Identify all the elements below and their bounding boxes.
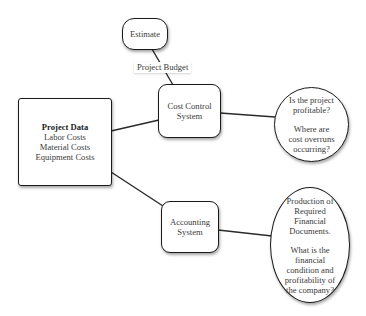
edge-label-project-budget: Project Budget xyxy=(134,62,191,73)
question-line: profitable? xyxy=(293,105,330,115)
output-line: Documents. xyxy=(289,226,330,236)
node-accounting-system[interactable]: Accounting System xyxy=(161,201,219,253)
output-line: What is the xyxy=(290,245,329,255)
edge-cost-control-to-questions xyxy=(220,113,275,117)
edge-project-data-to-accounting xyxy=(111,172,163,206)
output-line: financial xyxy=(295,255,325,265)
node-project-data-title: Project Data xyxy=(42,122,88,132)
node-project-data-item: Material Costs xyxy=(40,142,90,152)
output-line: Production of xyxy=(286,196,333,206)
node-accounting-outputs[interactable]: Production of Required Financial Documen… xyxy=(270,187,350,303)
output-line: the company? xyxy=(286,285,334,295)
question-line: Is the project xyxy=(289,95,334,105)
question-line: occurring? xyxy=(293,144,330,154)
node-estimate[interactable]: Estimate xyxy=(122,18,168,50)
output-line: Required xyxy=(294,206,326,216)
node-accounting-line: Accounting xyxy=(170,217,210,227)
diagram-canvas: Project Budget Estimate Project Data Lab… xyxy=(0,0,366,316)
node-estimate-label: Estimate xyxy=(130,29,160,39)
edge-accounting-to-outputs xyxy=(218,230,272,236)
question-line: Where are xyxy=(294,124,330,134)
node-project-data-item: Equipment Costs xyxy=(36,152,95,162)
output-line: condition and xyxy=(286,265,333,275)
edge-project-data-to-cost-control xyxy=(111,120,159,131)
node-cost-control-questions[interactable]: Is the project profitable? Where are cos… xyxy=(274,87,349,162)
node-cost-control-line: Cost Control xyxy=(167,101,211,111)
node-cost-control-system[interactable]: Cost Control System xyxy=(158,84,221,138)
node-cost-control-line: System xyxy=(177,111,202,121)
node-project-data-item: Labor Costs xyxy=(44,132,86,142)
node-accounting-line: System xyxy=(177,227,202,237)
output-line: Financial xyxy=(294,216,326,226)
node-project-data[interactable]: Project Data Labor Costs Material Costs … xyxy=(18,98,112,186)
question-line: cost overruns xyxy=(288,134,334,144)
output-line: profitability of xyxy=(285,275,335,285)
